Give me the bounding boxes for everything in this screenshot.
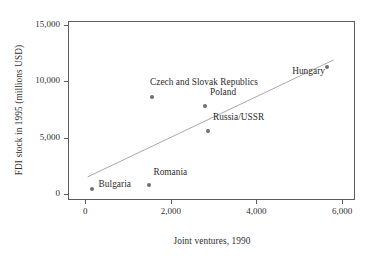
data-point-label: Romania	[153, 167, 187, 177]
y-tick-label: 0	[16, 188, 60, 198]
y-tick-label: 15,000	[16, 19, 60, 29]
x-axis-title: Joint ventures, 1990	[68, 236, 356, 246]
x-tick-label: 6,000	[317, 206, 367, 216]
x-tick-mark	[171, 200, 172, 204]
x-tick-label: 4,000	[231, 206, 281, 216]
data-point-label: Hungary	[292, 66, 325, 76]
scatter-chart-figure: FDI stock in 1995 (millions USD) Joint v…	[0, 0, 380, 260]
y-axis-title: FDI stock in 1995 (millions USD)	[14, 15, 28, 205]
x-tick-mark	[342, 200, 343, 204]
x-tick-label: 0	[60, 206, 110, 216]
data-point-label: Bulgaria	[99, 179, 131, 189]
data-point-marker[interactable]	[90, 187, 94, 191]
data-point-marker[interactable]	[325, 65, 329, 69]
y-tick-label: 10,000	[16, 75, 60, 85]
y-tick-label: 5,000	[16, 132, 60, 142]
x-tick-mark	[256, 200, 257, 204]
data-point-label: Poland	[210, 87, 236, 97]
x-tick-mark	[85, 200, 86, 204]
data-point-label: Russia/USSR	[213, 112, 264, 122]
data-point-label: Czech and Slovak Republics	[150, 77, 258, 87]
plot-area	[68, 21, 355, 200]
x-tick-label: 2,000	[146, 206, 196, 216]
